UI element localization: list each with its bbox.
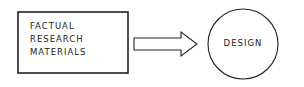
source-line-1: FACTUAL xyxy=(30,20,120,33)
source-line-3: MATERIALS xyxy=(30,46,120,59)
arrow-right-icon xyxy=(134,32,197,56)
source-line-2: RESEARCH xyxy=(30,33,120,46)
target-circle-label: DESIGN xyxy=(213,37,273,50)
diagram-canvas: FACTUAL RESEARCH MATERIALS DESIGN xyxy=(0,0,304,87)
source-box-label: FACTUAL RESEARCH MATERIALS xyxy=(30,20,120,59)
